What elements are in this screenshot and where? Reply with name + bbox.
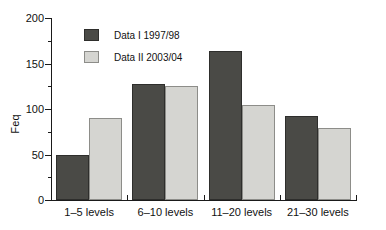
bar xyxy=(56,155,89,201)
bar xyxy=(209,51,242,200)
bar xyxy=(285,116,318,200)
bar-group xyxy=(209,18,275,200)
legend-label: Data I 1997/98 xyxy=(114,30,180,41)
bar xyxy=(318,128,351,200)
bar xyxy=(132,84,165,200)
legend-label: Data II 2003/04 xyxy=(114,52,182,63)
y-tick-label: 200 xyxy=(4,13,44,24)
y-tick-label: 100 xyxy=(4,104,44,115)
bar xyxy=(165,86,198,200)
y-tick-label: 150 xyxy=(4,58,44,69)
legend-item: Data I 1997/98 xyxy=(84,24,182,46)
x-axis-end-tick xyxy=(356,195,357,201)
x-category-label: 21–30 levels xyxy=(287,206,349,218)
x-category-label: 1–5 levels xyxy=(64,206,114,218)
x-category-label: 11–20 levels xyxy=(211,206,272,218)
bar-chart: Feq 050100150200 1–5 levels6–10 levels11… xyxy=(0,0,386,230)
bar xyxy=(89,118,122,200)
chart-legend: Data I 1997/98Data II 2003/04 xyxy=(84,24,182,68)
x-category-label: 6–10 levels xyxy=(138,206,194,218)
y-tick-label: 0 xyxy=(4,195,44,206)
bar xyxy=(242,105,275,200)
bar-group xyxy=(285,18,351,200)
dark-swatch xyxy=(84,29,99,41)
y-tick-label: 50 xyxy=(4,149,44,160)
light-swatch xyxy=(84,51,99,63)
legend-item: Data II 2003/04 xyxy=(84,46,182,68)
